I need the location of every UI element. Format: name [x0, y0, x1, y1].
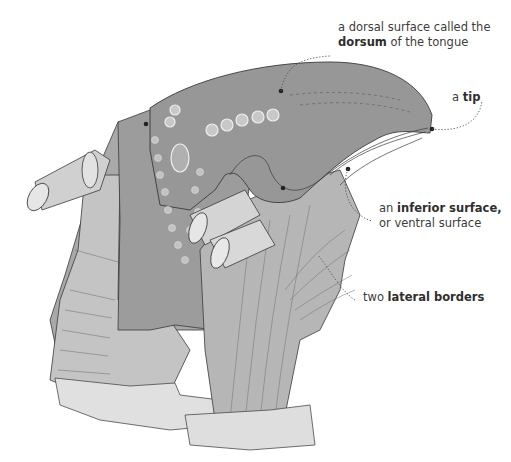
label-dorsum: a dorsal surface called the dorsum of th…	[338, 20, 490, 50]
label-inferior-line2: or ventral surface	[379, 216, 502, 231]
label-lateral-prefix: two	[363, 290, 388, 304]
label-tip: a tip	[452, 90, 480, 105]
label-dorsum-line2: dorsum of the tongue	[338, 35, 490, 50]
label-inferior-bold: inferior surface,	[397, 201, 502, 215]
label-dorsum-bold: dorsum	[338, 35, 387, 49]
label-inferior-surface: an inferior surface, or ventral surface	[379, 201, 502, 231]
label-dorsum-rest: of the tongue	[387, 35, 468, 49]
label-lateral-borders: two lateral borders	[363, 290, 484, 305]
label-lateral-bold: lateral borders	[388, 290, 485, 304]
label-inferior-line1: an inferior surface,	[379, 201, 502, 216]
label-tip-prefix: a	[452, 90, 463, 104]
label-inferior-prefix: an	[379, 201, 397, 215]
tongue-illustration	[0, 0, 511, 462]
label-tip-bold: tip	[463, 90, 481, 104]
label-dorsum-line1: a dorsal surface called the	[338, 20, 490, 35]
